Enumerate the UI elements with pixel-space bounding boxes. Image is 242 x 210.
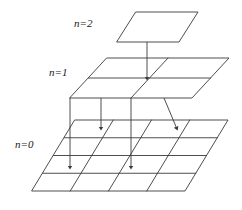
- arrow-n1-to-n0-d: [164, 98, 177, 129]
- level-label-n2-text: n=2: [74, 17, 92, 29]
- level-label-n1: n=1: [49, 66, 67, 78]
- plane-n2-outline: [117, 12, 198, 42]
- plane-n0: [32, 120, 228, 191]
- level-label-n2: n=2: [74, 17, 92, 29]
- plane-n1: [70, 58, 229, 98]
- grid-hierarchy-figure: n=2 n=1 n=0: [0, 0, 242, 210]
- level-label-n0: n=0: [15, 138, 33, 150]
- plane-n2: [117, 12, 198, 42]
- figure-canvas: [0, 0, 242, 210]
- refinement-arrows: [70, 42, 177, 168]
- level-label-n1-text: n=1: [49, 66, 67, 78]
- level-label-n0-text: n=0: [15, 138, 33, 150]
